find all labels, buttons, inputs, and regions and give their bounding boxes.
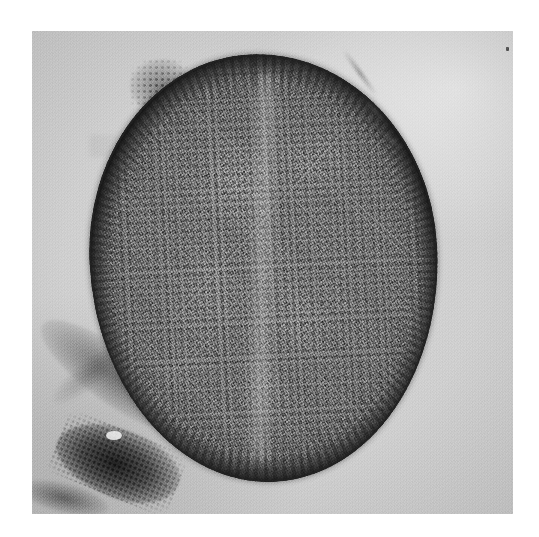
figure-root: Transmission electron micrograph showing…	[0, 0, 539, 537]
film-grain-secondary	[32, 31, 513, 514]
micrograph-panel	[32, 31, 513, 514]
